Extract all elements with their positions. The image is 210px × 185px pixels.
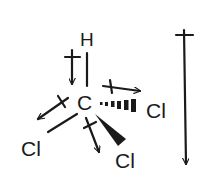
dipole-arrow-cl-right — [103, 80, 140, 93]
dipole-arrow-c-h — [65, 50, 80, 84]
dipole-arrow-cl-bottom — [84, 118, 99, 152]
bond-c-cl-left — [48, 114, 77, 132]
chloroform-dipole-diagram: H C Cl Cl Cl — [0, 0, 210, 185]
net-dipole-arrow — [176, 30, 193, 164]
bond-c-cl-right-hashed — [100, 99, 136, 112]
atom-cl-bottom: Cl — [115, 150, 135, 171]
atom-c: C — [77, 92, 92, 113]
atom-cl-left: Cl — [21, 138, 41, 159]
atom-h: H — [80, 30, 94, 49]
bond-c-cl-bottom-wedge — [95, 114, 126, 146]
dipole-arrow-cl-left — [38, 96, 68, 119]
atom-cl-right: Cl — [146, 100, 166, 121]
